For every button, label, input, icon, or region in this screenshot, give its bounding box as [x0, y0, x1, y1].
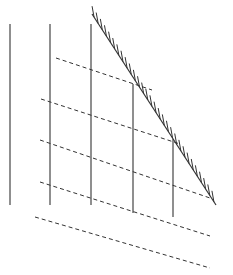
dashed-diagonal-lines	[35, 58, 210, 268]
dashed-line-2	[41, 99, 180, 144]
dashed-line-3	[40, 140, 210, 198]
grid-boundary-diagram	[0, 0, 233, 275]
dashed-line-5	[35, 217, 210, 268]
diagram-canvas	[0, 0, 233, 275]
dashed-line-4	[40, 182, 210, 236]
solid-vertical-lines	[10, 24, 173, 217]
hatched-boundary-line	[92, 6, 216, 205]
